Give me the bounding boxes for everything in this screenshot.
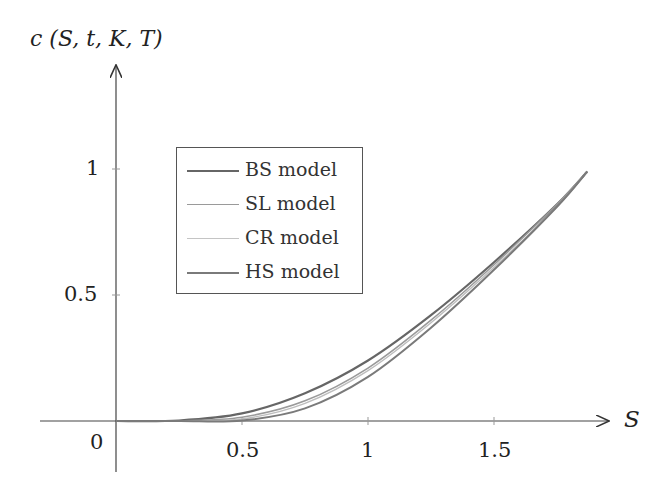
legend-label: BS model [245, 158, 337, 180]
legend-swatch [187, 272, 239, 274]
origin-label: 0 [90, 430, 103, 454]
legend-label: SL model [245, 192, 336, 214]
legend-item-cr: CR model [177, 224, 362, 254]
x-tick-label-1.5: 1.5 [478, 438, 511, 462]
legend-label: HS model [245, 260, 340, 282]
legend: BS model SL model CR model HS model [176, 147, 363, 294]
legend-swatch [187, 238, 239, 239]
legend-swatch [187, 170, 239, 172]
y-axis-label: c (S, t, K, T) [30, 26, 163, 51]
x-tick-label-0.5: 0.5 [226, 438, 259, 462]
legend-label: CR model [245, 226, 339, 248]
x-tick-label-1: 1 [361, 438, 374, 462]
legend-item-sl: SL model [177, 190, 362, 220]
legend-item-bs: BS model [177, 156, 362, 186]
x-axis-label: S [624, 406, 640, 432]
legend-item-hs: HS model [177, 258, 362, 288]
y-tick-label-1: 1 [86, 156, 99, 180]
y-tick-label-0.5: 0.5 [64, 282, 97, 306]
legend-swatch [187, 204, 239, 205]
